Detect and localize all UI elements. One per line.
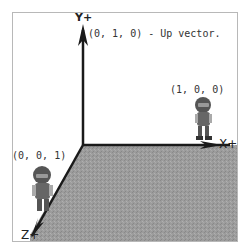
z-axis-label: Z+ [21, 228, 39, 242]
z-point-label: (0, 0, 1) [12, 150, 66, 161]
x-point-label: (1, 0, 0) [170, 84, 224, 95]
up-vector-label: (0, 1, 0) - Up vector. [88, 28, 220, 39]
y-axis-label: Y+ [75, 11, 92, 24]
x-axis-label: X+ [219, 137, 237, 151]
character-x-icon [195, 97, 212, 140]
